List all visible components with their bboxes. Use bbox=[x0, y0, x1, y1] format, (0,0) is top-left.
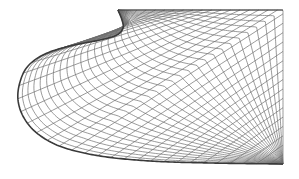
mesh-line-parallel bbox=[94, 10, 283, 164]
mesh-line-cross bbox=[31, 10, 202, 63]
mesh-line-parallel bbox=[108, 10, 283, 164]
mesh-diagram bbox=[0, 0, 299, 179]
mesh-lines-tangential bbox=[22, 10, 283, 164]
mesh-line-parallel bbox=[40, 10, 283, 164]
mesh-line-cross bbox=[151, 70, 284, 161]
mesh-lines-radial bbox=[18, 10, 283, 164]
mesh-line-cross bbox=[137, 61, 283, 160]
mesh-svg bbox=[0, 0, 299, 179]
